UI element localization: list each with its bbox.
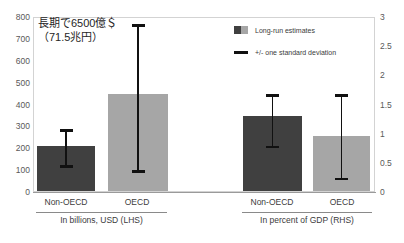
right-axis-tick: 2.5 <box>380 42 392 51</box>
left-axis-tick: 600 <box>16 57 30 66</box>
right-axis-tick: 1 <box>380 130 385 139</box>
category-label-oecd-billions: OECD <box>107 197 167 207</box>
category-label-non-oecd-billions: Non-OECD <box>36 197 96 207</box>
error-bar-stem <box>65 129 67 167</box>
group-rule-billions-usd <box>36 212 167 213</box>
error-bar-stem <box>341 94 343 180</box>
left-axis-tick: 200 <box>16 144 30 153</box>
error-bar-non-oecd-percent-gdp <box>243 94 302 148</box>
error-bar-cap-top <box>132 24 145 27</box>
legend-item-long-run-estimates: Long-run estimates <box>234 23 336 37</box>
right-axis-tick: 3 <box>380 13 385 22</box>
legend-item-std-deviation: +/- one standard deviation <box>234 45 336 59</box>
error-bar-cap-bottom <box>132 170 145 173</box>
chart-annotation: 長期で6500億＄ （71.5兆円） <box>38 17 117 44</box>
group-label-billions-usd: In billions, USD (LHS) <box>36 215 167 225</box>
error-bar-cap-bottom <box>335 178 348 181</box>
chart-legend: Long-run estimates +/- one standard devi… <box>234 23 336 67</box>
error-bar-stem <box>272 94 274 148</box>
error-bar-oecd-billions <box>108 24 168 173</box>
error-bar-cap-bottom <box>266 146 279 149</box>
legend-label: +/- one standard deviation <box>255 49 336 56</box>
category-label-oecd-percent-gdp: OECD <box>312 197 372 207</box>
group-rule-percent-gdp <box>242 212 372 213</box>
right-axis-tick: 0 <box>380 188 385 197</box>
bar-swatch-icon <box>234 26 248 34</box>
error-bar-stem <box>137 24 139 173</box>
error-bar-oecd-percent-gdp <box>313 94 370 180</box>
category-label-non-oecd-percent-gdp: Non-OECD <box>242 197 302 207</box>
left-axis-tick: 300 <box>16 122 30 131</box>
right-axis-tick: 2 <box>380 71 385 80</box>
left-axis-tick: 800 <box>16 13 30 22</box>
right-axis-tick: 0.5 <box>380 159 392 168</box>
left-axis-tick: 0 <box>25 188 30 197</box>
axis-baseline <box>33 192 376 193</box>
chart-container: 800 700 600 500 400 300 200 100 0 3 2.5 … <box>0 0 404 243</box>
error-bar-cap-bottom <box>60 165 73 168</box>
right-axis-tick: 1.5 <box>380 101 392 110</box>
error-bar-non-oecd-billions <box>37 129 95 167</box>
line-swatch-icon <box>234 51 248 54</box>
error-bar-cap-top <box>60 129 73 132</box>
group-label-percent-gdp: In percent of GDP (RHS) <box>242 215 372 225</box>
left-axis-tick: 400 <box>16 101 30 110</box>
left-axis-tick: 500 <box>16 79 30 88</box>
legend-label: Long-run estimates <box>255 27 315 34</box>
error-bar-cap-top <box>335 94 348 97</box>
left-axis-tick: 100 <box>16 166 30 175</box>
error-bar-cap-top <box>266 94 279 97</box>
left-axis-tick: 700 <box>16 35 30 44</box>
